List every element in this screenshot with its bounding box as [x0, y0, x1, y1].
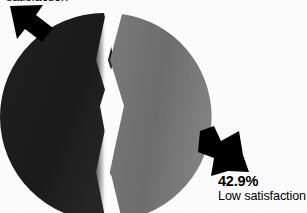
pie-slice-low-satisfaction[interactable]: [110, 14, 212, 213]
slice-label-low-satisfaction: 42.9% Low satisfaction: [218, 174, 306, 203]
slice-caption-high-satisfaction: satisfaction: [6, 0, 68, 5]
slice-caption-low-satisfaction: Low satisfaction: [218, 190, 306, 204]
slice-percent-low-satisfaction: 42.9%: [218, 174, 306, 190]
pie-chart-figure: satisfaction 42.9% Low satisfaction: [0, 0, 307, 213]
pie-slice-high-satisfaction[interactable]: [0, 13, 114, 213]
slice-label-high-satisfaction: satisfaction: [6, 0, 68, 5]
callout-arrow-low-satisfaction: [198, 126, 249, 176]
